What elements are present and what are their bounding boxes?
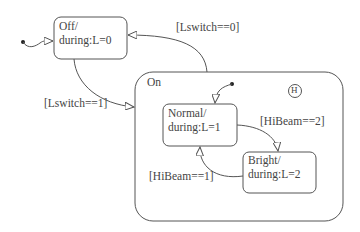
state-normal-name: Normal/ <box>168 106 220 120</box>
state-off-name: Off/ <box>59 19 111 33</box>
history-junction-label: H <box>291 84 298 97</box>
state-on-name: On <box>147 75 161 89</box>
state-off-label: Off/ during:L=0 <box>59 19 111 47</box>
transition-on-to-off <box>128 35 207 72</box>
state-bright-name: Bright/ <box>248 153 300 167</box>
state-on[interactable] <box>135 72 343 221</box>
state-bright-label: Bright/ during:L=2 <box>248 153 300 181</box>
state-bright-action: during:L=2 <box>248 167 300 181</box>
label-on-to-off: [Lswitch==0] <box>176 21 239 34</box>
state-off-action: during:L=0 <box>59 33 111 47</box>
state-normal-label: Normal/ during:L=1 <box>168 106 220 134</box>
label-bright-to-normal: [HiBeam==1] <box>149 170 214 183</box>
default-transition-off <box>23 41 53 47</box>
label-off-to-on: [Lswitch==1] <box>44 97 107 110</box>
label-normal-to-bright: [HiBeam==2] <box>260 115 325 128</box>
state-normal-action: during:L=1 <box>168 120 220 134</box>
